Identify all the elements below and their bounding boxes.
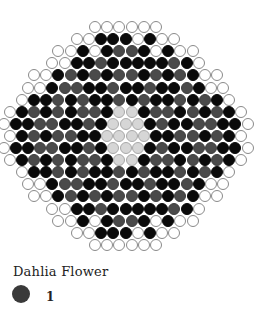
bead <box>65 166 77 178</box>
bead <box>144 227 156 239</box>
legend-count: 1 <box>46 290 54 304</box>
bead <box>126 94 138 106</box>
legend-swatch-icon <box>12 285 30 303</box>
bead <box>126 166 138 178</box>
bead <box>83 178 95 190</box>
bead <box>168 33 180 45</box>
bead <box>101 21 113 33</box>
bead-pattern <box>0 0 254 260</box>
bead <box>181 57 193 69</box>
bead <box>211 130 223 142</box>
bead <box>120 142 132 154</box>
bead <box>211 94 223 106</box>
bead <box>77 106 89 118</box>
bead <box>199 130 211 142</box>
bead <box>205 142 217 154</box>
bead <box>193 118 205 130</box>
bead <box>52 106 64 118</box>
bead <box>89 239 101 251</box>
bead <box>162 130 174 142</box>
bead <box>168 142 180 154</box>
bead <box>89 130 101 142</box>
bead <box>187 215 199 227</box>
bead <box>65 106 77 118</box>
bead <box>113 130 125 142</box>
bead <box>40 166 52 178</box>
bead <box>46 142 58 154</box>
bead <box>138 106 150 118</box>
bead <box>10 118 22 130</box>
bead <box>174 94 186 106</box>
bead <box>46 118 58 130</box>
bead <box>4 154 16 166</box>
bead <box>107 142 119 154</box>
bead <box>89 215 101 227</box>
bead <box>193 82 205 94</box>
bead <box>28 69 40 81</box>
bead <box>83 57 95 69</box>
bead <box>40 94 52 106</box>
bead <box>168 57 180 69</box>
bead <box>77 215 89 227</box>
bead <box>217 82 229 94</box>
bead <box>4 106 16 118</box>
bead <box>217 118 229 130</box>
bead <box>107 118 119 130</box>
bead <box>40 69 52 81</box>
bead <box>126 239 138 251</box>
bead <box>40 154 52 166</box>
bead <box>132 82 144 94</box>
bead <box>120 227 132 239</box>
bead <box>168 118 180 130</box>
bead <box>107 203 119 215</box>
bead <box>113 190 125 202</box>
bead <box>235 154 247 166</box>
bead <box>174 215 186 227</box>
bead <box>126 154 138 166</box>
bead <box>162 45 174 57</box>
bead <box>46 178 58 190</box>
bead <box>126 190 138 202</box>
bead <box>229 142 241 154</box>
bead <box>89 45 101 57</box>
bead <box>235 130 247 142</box>
bead <box>187 154 199 166</box>
bead <box>156 178 168 190</box>
bead <box>223 130 235 142</box>
bead <box>28 166 40 178</box>
bead <box>187 130 199 142</box>
bead <box>205 82 217 94</box>
bead <box>83 142 95 154</box>
bead <box>52 215 64 227</box>
bead <box>40 106 52 118</box>
bead <box>52 45 64 57</box>
bead <box>138 190 150 202</box>
bead <box>113 45 125 57</box>
bead <box>89 94 101 106</box>
bead <box>150 21 162 33</box>
bead <box>223 106 235 118</box>
bead <box>59 57 71 69</box>
bead <box>65 94 77 106</box>
bead <box>162 94 174 106</box>
bead <box>22 118 34 130</box>
bead <box>168 82 180 94</box>
bead <box>199 69 211 81</box>
bead <box>156 203 168 215</box>
bead <box>71 142 83 154</box>
bead <box>229 118 241 130</box>
bead <box>120 57 132 69</box>
bead <box>144 57 156 69</box>
bead <box>101 106 113 118</box>
bead <box>181 118 193 130</box>
bead <box>199 166 211 178</box>
bead <box>95 33 107 45</box>
bead <box>52 190 64 202</box>
bead <box>95 118 107 130</box>
bead <box>71 33 83 45</box>
bead <box>89 190 101 202</box>
bead <box>205 178 217 190</box>
bead <box>71 118 83 130</box>
bead <box>16 106 28 118</box>
bead <box>65 45 77 57</box>
